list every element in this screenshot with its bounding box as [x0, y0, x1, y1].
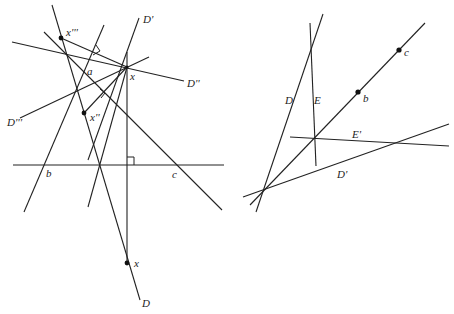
line-E-prime — [290, 137, 449, 146]
label-c-right: c — [404, 46, 409, 58]
point-x-double-prime — [82, 111, 87, 116]
label-b: b — [46, 167, 52, 179]
label-D-prime: D' — [142, 13, 154, 25]
line-D-prime — [88, 18, 139, 160]
point-c — [396, 47, 401, 52]
label-x-bottom: x — [133, 257, 139, 269]
line-x3-x — [61, 38, 127, 67]
left-figure: D' D'' D''' x''' x a x'' b c x D — [6, 5, 224, 309]
line-D-right — [256, 14, 323, 212]
label-D-prime-right: D' — [336, 168, 348, 180]
label-x-triple-prime: x''' — [65, 26, 79, 38]
label-b-right: b — [363, 92, 369, 104]
point-x — [125, 65, 128, 68]
point-b — [355, 89, 360, 94]
label-D: D — [141, 297, 150, 309]
label-D-double-prime: D'' — [186, 77, 200, 89]
point-x-bottom — [125, 261, 130, 266]
label-c: c — [172, 168, 177, 180]
label-x-double-prime: x'' — [89, 111, 100, 123]
line-D-triple-prime — [20, 57, 149, 118]
line-through-c — [44, 32, 222, 210]
label-E: E — [313, 94, 321, 106]
right-figure: c b D E E' D' — [243, 14, 449, 212]
point-x-triple-prime — [59, 36, 64, 41]
label-D-triple-prime: D''' — [6, 116, 23, 128]
label-a: a — [87, 65, 93, 77]
label-x: x — [129, 70, 135, 82]
right-angle-marker-bottom — [127, 157, 134, 165]
geometry-diagram: D' D'' D''' x''' x a x'' b c x D c b D E… — [0, 0, 454, 314]
right-angle-marker-top — [93, 45, 100, 55]
label-D-right: D — [284, 94, 293, 106]
label-E-prime: E' — [351, 128, 362, 140]
